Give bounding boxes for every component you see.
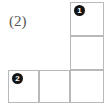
grid-cell-row3-col3: [70, 70, 104, 103]
grid-cell-row2-col3: [70, 36, 104, 70]
numbered-marker-2: 2: [12, 73, 23, 84]
grid-cell-row3-col2: [39, 70, 70, 103]
numbered-marker-1: 1: [74, 5, 85, 16]
figure-container: (2) 1 2: [0, 0, 112, 112]
figure-label: (2): [9, 14, 27, 29]
